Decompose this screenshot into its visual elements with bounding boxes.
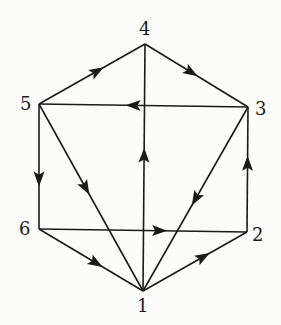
node-label-2: 2 bbox=[252, 226, 263, 244]
arrowhead-icon bbox=[192, 190, 204, 206]
node-label-5: 5 bbox=[20, 95, 31, 113]
arrowhead-icon bbox=[87, 255, 103, 267]
node-label-3: 3 bbox=[255, 100, 266, 118]
edge-5-to-4 bbox=[39, 44, 145, 104]
arrowhead-icon bbox=[182, 64, 198, 77]
edge-4-to-3 bbox=[145, 44, 248, 107]
edges-layer bbox=[34, 44, 254, 291]
arrowhead-icon bbox=[194, 253, 210, 265]
directed-graph-diagram: 1 2 3 4 5 6 bbox=[0, 0, 281, 325]
edge-1-to-2 bbox=[143, 232, 247, 291]
edge-5-to-6 bbox=[34, 104, 45, 229]
node-label-6: 6 bbox=[19, 220, 30, 238]
edge-3-to-5 bbox=[39, 100, 248, 111]
node-label-1: 1 bbox=[137, 297, 148, 315]
node-label-4: 4 bbox=[139, 20, 150, 38]
arrowhead-icon bbox=[77, 179, 89, 195]
edge-1-to-4 bbox=[139, 44, 150, 291]
arrowhead-icon bbox=[88, 67, 104, 79]
edge-2-to-3 bbox=[242, 107, 253, 232]
edge-3-to-1 bbox=[143, 107, 248, 291]
graph-canvas bbox=[0, 0, 281, 325]
edge-6-to-1 bbox=[39, 229, 143, 291]
